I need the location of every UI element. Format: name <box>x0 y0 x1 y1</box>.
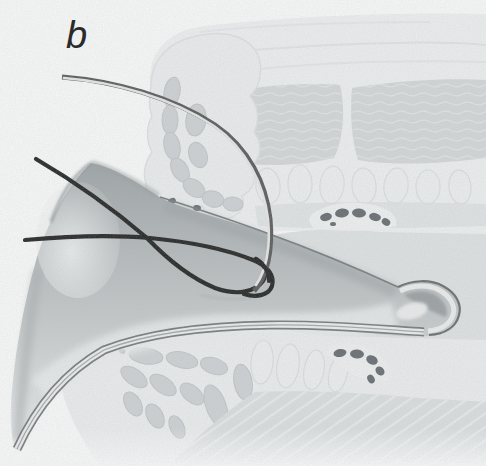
medical-illustration: b <box>0 0 486 466</box>
illustration-canvas <box>0 0 486 466</box>
paper-grain-overlay <box>0 0 486 466</box>
figure-label: b <box>66 16 87 54</box>
